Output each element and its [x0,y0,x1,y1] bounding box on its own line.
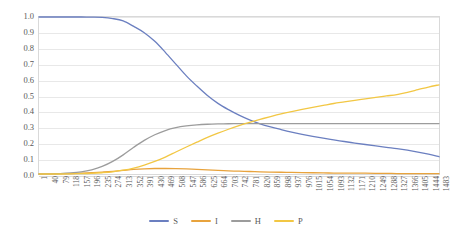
y-axis-tick-label: 1.0 [0,12,34,21]
x-axis-tick-label: 1405 [422,176,430,191]
x-axis-tick-label: 79 [63,176,71,184]
x-axis-tick-label: 1366 [412,176,420,191]
x-axis-tick-label: 937 [295,176,303,187]
x-axis-tick-label: 1171 [359,176,367,191]
legend-item-i[interactable]: I [191,217,218,226]
x-axis-tick-label: 274 [115,176,123,187]
x-axis-tick-label: 1132 [348,176,356,191]
x-axis-tick-label: 586 [200,176,208,187]
y-axis-tick-label: 0.3 [0,123,34,132]
x-axis-tick-label: 703 [232,176,240,187]
x-axis-tick-label: 547 [190,176,198,187]
y-axis-tick-label: 0.1 [0,155,34,164]
series-line-p [39,85,439,174]
x-axis-tick-label: 469 [168,176,176,187]
legend-label: I [215,217,218,226]
x-axis-tick-label: 118 [73,176,81,187]
legend-item-p[interactable]: P [274,217,303,226]
x-axis-tick-label: 196 [94,176,102,187]
legend-swatch-icon [191,220,211,222]
y-axis-tick-label: 0.4 [0,107,34,116]
x-axis-tick-label: 508 [179,176,187,187]
y-axis-tick-label: 0.6 [0,75,34,84]
y-axis-tick-label: 0.2 [0,139,34,148]
y-axis-tick-label: 0.7 [0,59,34,68]
y-axis: 0.00.10.20.30.40.50.60.70.80.91.0 [0,16,34,175]
x-axis-tick-label: 1327 [401,176,409,191]
x-axis-tick-label: 976 [306,176,314,187]
x-axis-tick-label: 313 [126,176,134,187]
legend-label: H [255,217,261,226]
x-axis-tick-label: 235 [105,176,113,187]
x-axis-tick-label: 742 [242,176,250,187]
legend-swatch-icon [231,220,251,222]
y-axis-tick-label: 0.5 [0,91,34,100]
x-axis: 1407911815719623527431335239143046950854… [38,176,440,210]
series-lines [39,17,439,174]
x-axis-tick-label: 157 [84,176,92,187]
legend-label: S [173,217,178,226]
x-axis-tick-label: 625 [211,176,219,187]
line-chart: 0.00.10.20.30.40.50.60.70.80.91.0 140791… [0,0,452,235]
legend-item-h[interactable]: H [231,217,261,226]
series-line-h [39,124,439,174]
x-axis-tick-label: 859 [274,176,282,187]
x-axis-tick-label: 820 [264,176,272,187]
x-axis-tick-label: 1093 [338,176,346,191]
x-axis-tick-label: 898 [285,176,293,187]
x-axis-tick-label: 40 [52,176,60,184]
x-axis-tick-label: 664 [221,176,229,187]
x-axis-tick-label: 781 [253,176,261,187]
y-axis-tick-label: 0.9 [0,28,34,37]
legend-swatch-icon [274,220,294,222]
series-line-s [39,17,439,157]
x-axis-tick-label: 391 [147,176,155,187]
legend-item-s[interactable]: S [149,217,178,226]
x-axis-tick-label: 1288 [391,176,399,191]
x-axis-tick-label: 1054 [327,176,335,191]
y-axis-tick-label: 0.0 [0,171,34,180]
x-axis-tick-label: 352 [137,176,145,187]
x-axis-tick-label: 1249 [380,176,388,191]
chart-legend: SIHP [0,212,452,230]
x-axis-tick-label: 1483 [443,176,451,191]
legend-label: P [298,217,303,226]
x-axis-tick-label: 1 [41,176,49,180]
y-axis-tick-label: 0.8 [0,44,34,53]
x-axis-tick-label: 1210 [369,176,377,191]
x-axis-tick-label: 430 [158,176,166,187]
plot-area [38,16,440,175]
x-axis-tick-label: 1444 [433,176,441,191]
x-axis-tick-label: 1015 [316,176,324,191]
legend-swatch-icon [149,220,169,222]
